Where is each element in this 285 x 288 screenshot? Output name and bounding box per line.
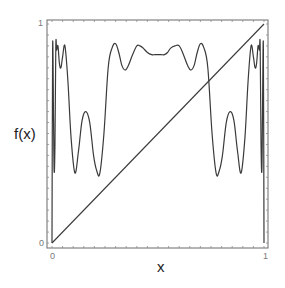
chart: 1 0 0 1 f(x) x [0,0,285,288]
identity-line [52,24,264,243]
y-tick-label-1: 1 [38,18,43,28]
y-axis-label: f(x) [14,125,36,142]
x-tick-label-1: 1 [263,251,268,261]
y-tick-label-0: 0 [39,238,44,248]
function-curve [52,39,264,243]
x-axis-label: x [157,258,165,275]
x-tick-label-0: 0 [50,251,55,261]
